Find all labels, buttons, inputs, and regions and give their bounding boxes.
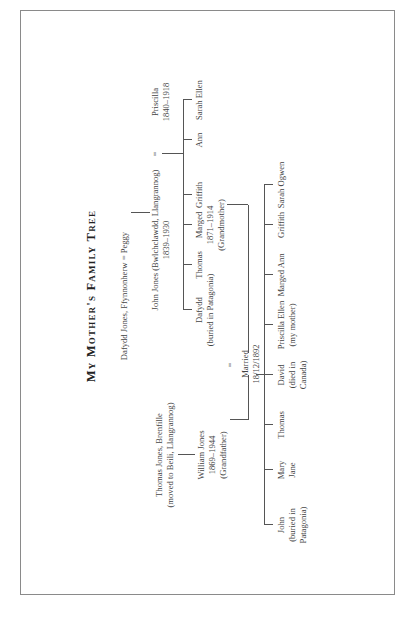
child-mary-jane: MaryJane bbox=[276, 461, 298, 480]
equals-sign: = bbox=[150, 152, 161, 157]
siblings-bar bbox=[183, 99, 184, 310]
tick bbox=[183, 194, 192, 195]
tick bbox=[183, 99, 192, 100]
william-jones: William Jones1869–1944(Grandfather) bbox=[196, 430, 229, 479]
tick bbox=[264, 224, 273, 225]
tick bbox=[264, 524, 273, 525]
sibling-thomas: Thomas bbox=[194, 251, 205, 279]
gen2-descent-line bbox=[162, 153, 183, 154]
sibling-ann: Ann bbox=[194, 133, 205, 148]
child-john: John(buried inPatagonia) bbox=[276, 507, 309, 544]
family-tree-canvas: My Mother's Family Tree Dafydd Jones, Ff… bbox=[20, 10, 396, 596]
child-priscilla-ellen: Priscilla Ellen(my mother) bbox=[276, 301, 298, 349]
tick bbox=[264, 424, 273, 425]
marriage-bar-right bbox=[248, 205, 249, 353]
priscilla: Priscilla 1840–1918 bbox=[150, 83, 172, 122]
tick bbox=[264, 469, 273, 470]
sibling-dafydd: Dafydd(buried in Patagonia) bbox=[194, 274, 216, 347]
child-marged-ann: Marged Ann bbox=[276, 253, 287, 296]
child-david: David(died inCanada) bbox=[276, 361, 309, 390]
page-title: My Mother's Family Tree bbox=[84, 210, 99, 382]
tick bbox=[183, 264, 192, 265]
tick bbox=[183, 139, 192, 140]
thomas-jones-brenfille: Thomas Jones, Brenfille(moved to Beili, … bbox=[154, 402, 176, 507]
child-griffith: Griffith bbox=[276, 212, 287, 238]
dafydd-jones-ffynnonherw: Dafydd Jones, Ffynnonherw = Peggy bbox=[119, 232, 130, 360]
tick bbox=[264, 374, 273, 375]
gen1-descent-line bbox=[131, 212, 150, 213]
sibling-sarah-ellen: Sarah Ellen bbox=[194, 80, 205, 120]
tick bbox=[256, 374, 264, 375]
tick bbox=[264, 184, 273, 185]
marriage-equals: = bbox=[225, 363, 236, 368]
tick bbox=[264, 324, 273, 325]
john-jones: John Jones (Bwlchclawdd, Llangrannog) 18… bbox=[150, 170, 172, 311]
sibling-griffith: Griffith bbox=[194, 182, 205, 208]
child-sarah-ogwen: Sarah Ogwen bbox=[276, 162, 287, 209]
paternal-descent-line bbox=[178, 454, 195, 455]
tick bbox=[183, 224, 192, 225]
children-bar bbox=[264, 184, 265, 525]
william-marriage-line bbox=[230, 419, 248, 420]
child-thomas: Thomas bbox=[276, 411, 287, 439]
tick bbox=[264, 274, 273, 275]
married-date: Married18/12/1892 bbox=[240, 344, 262, 383]
tick bbox=[183, 309, 192, 310]
marged-marriage-line bbox=[227, 204, 248, 205]
